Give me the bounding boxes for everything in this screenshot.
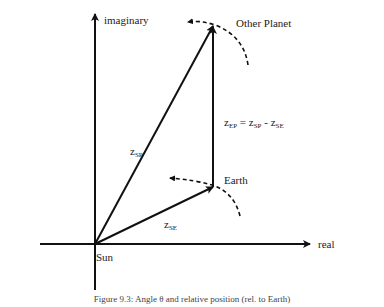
z-se-label: zSE <box>164 218 177 232</box>
z-sp-label: zSP <box>130 145 143 159</box>
real-axis-label: real <box>318 238 334 250</box>
figure-caption: Figure 9.3: Angle θ and relative positio… <box>94 294 291 304</box>
earth-label: Earth <box>224 174 248 186</box>
imaginary-axis-label: imaginary <box>104 14 149 26</box>
vector-z-se <box>95 187 213 244</box>
sun-label: Sun <box>96 251 114 263</box>
other-planet-label: Other Planet <box>236 17 291 29</box>
planet-vector-diagram: real imaginary Sun Earth Other Planet zS… <box>0 0 384 307</box>
z-ep-equation: zEP = zSP - zSE <box>224 116 284 130</box>
vector-z-sp <box>95 26 213 244</box>
